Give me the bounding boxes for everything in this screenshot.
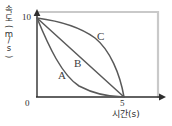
y-axis-title-char-6: s: [7, 44, 11, 53]
curve-label-a: A: [58, 70, 66, 81]
x-axis-tick-label-5: 5: [120, 99, 125, 108]
y-axis-title-char-7: ): [6, 55, 13, 58]
y-axis-tick-label-10: 10: [22, 13, 31, 22]
curve-label-c: C: [97, 31, 104, 42]
y-axis-title-char-3: (: [6, 25, 13, 28]
plot-frame-border: [37, 12, 158, 98]
x-axis-arrow-icon: [159, 94, 166, 101]
y-axis-title-char-2: 도: [5, 14, 13, 23]
velocity-time-graph-figure: 속 도 ( m / s ) 시간(s) 10 0 5 A B C: [0, 0, 172, 126]
origin-tick-label-0: 0: [25, 99, 30, 108]
curve-label-b: B: [74, 58, 81, 69]
x-axis-title: 시간(s): [112, 110, 140, 119]
y-axis-title: 속 도 ( m / s ): [2, 5, 16, 60]
